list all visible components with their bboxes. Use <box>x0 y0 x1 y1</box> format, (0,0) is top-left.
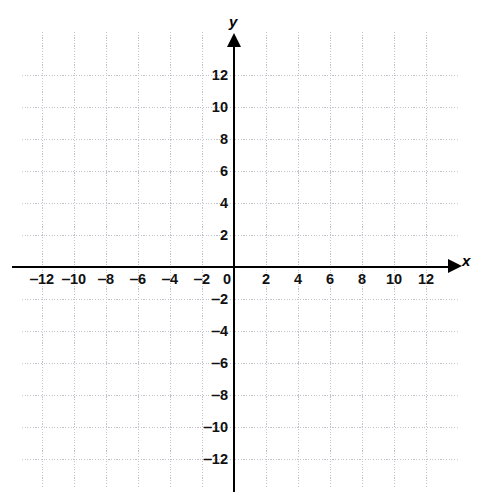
y-tick-label: 2 <box>220 228 228 243</box>
coordinate-plane-figure: x y ‒12‒10‒8‒6‒4‒224681012 12108642‒2‒4‒… <box>0 0 479 504</box>
gridline-vertical <box>426 32 427 488</box>
y-tick-label: ‒4 <box>212 324 228 339</box>
x-tick-label: ‒6 <box>130 272 146 287</box>
x-tick-label: 4 <box>294 272 302 287</box>
x-tick-label: ‒2 <box>194 272 210 287</box>
x-tick-label: 12 <box>418 272 434 287</box>
gridline-vertical <box>298 32 299 488</box>
y-tick-label: 6 <box>220 164 228 179</box>
x-tick-label: ‒8 <box>98 272 114 287</box>
x-axis-arrow-icon <box>448 259 462 273</box>
gridline-vertical <box>394 32 395 488</box>
gridline-vertical <box>138 32 139 488</box>
gridline-vertical <box>202 32 203 488</box>
y-axis-line <box>233 42 236 492</box>
y-tick-label: ‒8 <box>212 388 228 403</box>
y-tick-label: ‒2 <box>212 292 228 307</box>
gridline-vertical <box>106 32 107 488</box>
origin-label: 0 <box>223 272 231 287</box>
y-tick-label: 8 <box>220 132 228 147</box>
y-tick-label: 10 <box>212 100 228 115</box>
y-tick-label: 4 <box>220 196 228 211</box>
x-tick-label: ‒10 <box>62 272 86 287</box>
x-tick-label: ‒4 <box>162 272 178 287</box>
gridline-vertical <box>170 32 171 488</box>
gridline-vertical <box>362 32 363 488</box>
x-tick-label: 2 <box>262 272 270 287</box>
y-axis-label: y <box>229 14 237 29</box>
x-tick-label: ‒12 <box>30 272 54 287</box>
y-tick-label: ‒12 <box>204 452 228 467</box>
x-tick-label: 6 <box>326 272 334 287</box>
gridline-vertical <box>330 32 331 488</box>
x-tick-label: 8 <box>358 272 366 287</box>
x-tick-label: 10 <box>386 272 402 287</box>
y-tick-label: ‒6 <box>212 356 228 371</box>
x-axis-label: x <box>462 253 470 268</box>
y-tick-label: 12 <box>212 68 228 83</box>
gridline-vertical <box>74 32 75 488</box>
y-tick-label: ‒10 <box>204 420 228 435</box>
y-axis-arrow-icon <box>227 33 241 47</box>
gridline-vertical <box>266 32 267 488</box>
gridline-vertical <box>42 32 43 488</box>
